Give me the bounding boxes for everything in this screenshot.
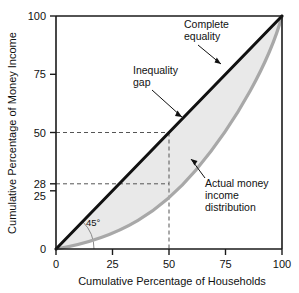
inequality-gap-label-line2: gap [133, 76, 151, 88]
x-tick-label-100: 100 [273, 258, 291, 270]
x-tick-label-25: 25 [106, 258, 118, 270]
y-tick-label-25: 25 [34, 190, 46, 202]
y-tick-label-100: 100 [28, 10, 46, 22]
y-tick-label-75: 75 [34, 68, 46, 80]
actual-money-label-line3: distribution [205, 201, 256, 213]
lorenz-curve-chart: 100 75 50 28 25 0 0 25 50 75 100 Cumulat… [0, 0, 299, 293]
x-axis-title: Cumulative Percentage of Households [78, 275, 266, 287]
y-axis-title: Cumulative Percentage of Money Income [6, 32, 18, 234]
y-tick-label-50: 50 [34, 127, 46, 139]
x-tick-label-0: 0 [53, 258, 59, 270]
y-tick-label-0: 0 [40, 243, 46, 255]
actual-money-label-line1: Actual money [205, 177, 269, 189]
complete-equality-label-line1: Complete [184, 18, 229, 30]
complete-equality-label-line2: equality [184, 30, 221, 42]
chart-svg: 100 75 50 28 25 0 0 25 50 75 100 Cumulat… [0, 0, 299, 293]
x-tick-label-50: 50 [163, 258, 175, 270]
x-tick-label-75: 75 [219, 258, 231, 270]
actual-money-label-line2: income [205, 189, 239, 201]
inequality-gap-label-line1: Inequality [133, 64, 179, 76]
angle-45-label: 45° [86, 217, 101, 228]
y-tick-label-28: 28 [34, 178, 46, 190]
